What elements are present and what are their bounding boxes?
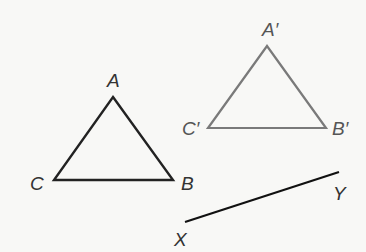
diagram-svg: A C B A′ C′ B′ Y X [0,0,366,252]
label-x: X [173,229,188,250]
label-b: B [181,173,194,194]
geometry-diagram: A C B A′ C′ B′ Y X [0,0,366,252]
triangle-a-prime-b-prime-c-prime [208,46,326,128]
label-a: A [106,70,120,91]
label-c-prime: C′ [182,118,201,139]
label-y: Y [333,183,347,204]
label-b-prime: B′ [332,118,350,139]
segment-xy [185,172,339,222]
triangle-abc [54,97,173,180]
label-a-prime: A′ [261,19,280,40]
label-c: C [30,173,44,194]
